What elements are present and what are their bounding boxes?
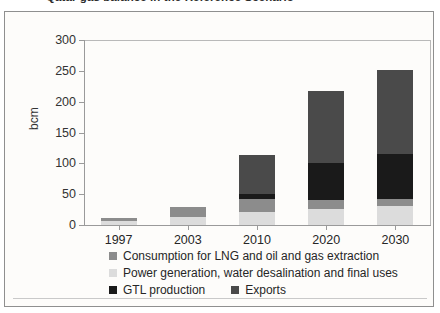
- bar-segment: [377, 154, 413, 199]
- bar-segment: [101, 221, 137, 225]
- y-axis-tick-label: 0: [69, 218, 76, 232]
- legend-label: Power generation, water desalination and…: [123, 266, 398, 280]
- y-axis-tick: [79, 102, 84, 103]
- x-axis-tick: [326, 225, 327, 230]
- x-axis-tick: [257, 225, 258, 230]
- bar-segment: [377, 199, 413, 206]
- plot-area: 050100150200250300 19972003201020202030: [84, 40, 430, 225]
- y-axis-line: [84, 40, 85, 226]
- legend-item[interactable]: GTL production: [109, 283, 205, 297]
- x-axis-tick: [119, 225, 120, 230]
- x-axis-label-2020: 2020: [312, 233, 340, 247]
- legend-swatch-icon: [109, 269, 117, 277]
- y-axis-tick: [79, 225, 84, 226]
- y-axis-tick: [79, 163, 84, 164]
- chart-legend: Consumption for LNG and oil and gas extr…: [109, 248, 429, 299]
- x-axis-label-2030: 2030: [381, 233, 409, 247]
- figure-frame: bcm 050100150200250300 19972003201020202…: [4, 11, 434, 307]
- bar-stack: [101, 218, 137, 225]
- y-axis-tick-label: 50: [62, 187, 76, 201]
- plot-right-border: [430, 40, 431, 226]
- bar-segment: [170, 217, 206, 225]
- y-axis-tick-label: 300: [55, 33, 76, 47]
- legend-label: GTL production: [123, 283, 205, 297]
- bar-stack: [170, 207, 206, 225]
- legend-row: GTL productionExports: [109, 282, 429, 298]
- y-axis-tick-label: 150: [55, 126, 76, 140]
- legend-bottom-rule: [13, 298, 427, 299]
- plot-top-border: [84, 40, 431, 41]
- x-axis-label-2003: 2003: [174, 233, 202, 247]
- y-axis-tick-label: 200: [55, 95, 76, 109]
- legend-row: Power generation, water desalination and…: [109, 265, 429, 281]
- bar-stack: [308, 91, 344, 225]
- bar-segment: [308, 163, 344, 200]
- bar-segment: [239, 212, 275, 225]
- figure-title: Qatar gas balance in the Reference Scena…: [46, 0, 426, 3]
- legend-item[interactable]: Power generation, water desalination and…: [109, 266, 398, 280]
- y-axis-tick-label: 100: [55, 156, 76, 170]
- x-axis-label-2010: 2010: [243, 233, 271, 247]
- bar-segment: [239, 199, 275, 213]
- legend-item[interactable]: Consumption for LNG and oil and gas extr…: [109, 249, 379, 263]
- bar-segment: [308, 91, 344, 163]
- y-axis-tick: [79, 133, 84, 134]
- bar-segment: [377, 206, 413, 225]
- bar-segment: [377, 70, 413, 154]
- bar-stack: [239, 155, 275, 225]
- legend-label: Consumption for LNG and oil and gas extr…: [123, 249, 379, 263]
- legend-swatch-icon: [109, 286, 117, 294]
- legend-row: Consumption for LNG and oil and gas extr…: [109, 248, 429, 264]
- y-axis-tick: [79, 40, 84, 41]
- bar-segment: [239, 155, 275, 193]
- figure-title-strip: Qatar gas balance in the Reference Scena…: [0, 0, 440, 11]
- bar-segment: [308, 209, 344, 225]
- bar-stack: [377, 70, 413, 225]
- y-axis-tick-label: 250: [55, 64, 76, 78]
- legend-swatch-icon: [109, 252, 117, 260]
- legend-label: Exports: [245, 283, 286, 297]
- x-axis-label-1997: 1997: [105, 233, 133, 247]
- bar-segment: [170, 207, 206, 217]
- x-axis-tick: [395, 225, 396, 230]
- y-axis-tick: [79, 71, 84, 72]
- x-axis-tick: [188, 225, 189, 230]
- y-axis-tick: [79, 194, 84, 195]
- legend-swatch-icon: [231, 286, 239, 294]
- y-axis-title: bcm: [27, 107, 41, 130]
- legend-item[interactable]: Exports: [231, 283, 286, 297]
- bar-segment: [308, 200, 344, 209]
